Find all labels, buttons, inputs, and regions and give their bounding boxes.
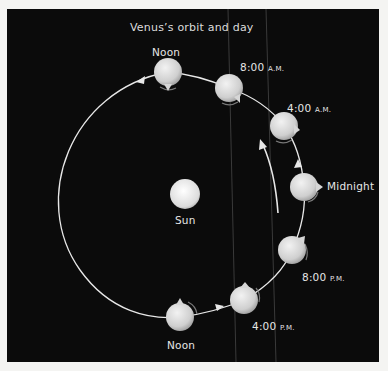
- venus-4am: [270, 112, 300, 140]
- orbit-arrow-icon: [136, 76, 302, 311]
- label-8am: 8:00 A.M.: [240, 62, 284, 73]
- label-noon-bottom: Noon: [167, 340, 195, 351]
- venus-8pm: [278, 236, 306, 264]
- label-4pm: 4:00 P.M.: [252, 321, 295, 332]
- venus-midnight: [290, 173, 323, 201]
- label-4am: 4:00 A.M.: [287, 103, 331, 114]
- sun: [170, 179, 200, 209]
- diagram-panel: Venus’s orbit and day Sun Noon 8:00 A.M.…: [7, 9, 379, 362]
- venus-noon-top: [154, 58, 182, 91]
- sun-label: Sun: [175, 215, 196, 226]
- label-midnight: Midnight: [327, 181, 374, 192]
- label-8pm: 8:00 P.M.: [302, 272, 345, 283]
- diagram-title: Venus’s orbit and day: [130, 22, 254, 33]
- venus-8am: [215, 74, 243, 103]
- label-noon-top: Noon: [152, 47, 180, 58]
- orbit-diagram: [7, 9, 379, 362]
- rotation-direction-arrow-icon: [259, 139, 278, 213]
